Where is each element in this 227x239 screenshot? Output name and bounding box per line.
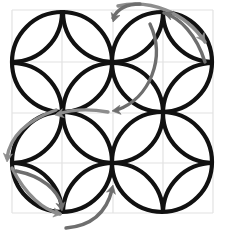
arrow-left-sweep-down (2, 110, 56, 162)
figure-canvas (0, 0, 227, 239)
petal-hub-r0c0 (0, 0, 62, 62)
geometric-tiling-diagram (0, 0, 227, 239)
arrow-bottom-center-up (66, 184, 117, 228)
